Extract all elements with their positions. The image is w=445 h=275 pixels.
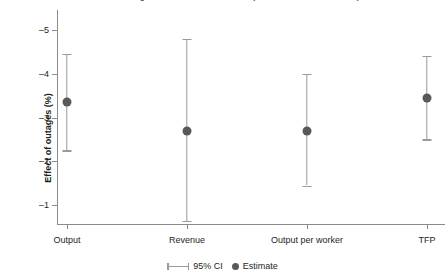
x-axis-line (57, 224, 445, 225)
errorbar-cap-lower (303, 186, 312, 187)
estimate-point (303, 126, 312, 135)
y-tick (52, 118, 57, 119)
estimate-point (183, 126, 192, 135)
x-tick (427, 225, 428, 229)
x-tick (307, 225, 308, 229)
errorbar-cap-lower (423, 139, 432, 140)
x-tick-label: TFP (419, 235, 436, 245)
y-tick-label: –2 (39, 156, 49, 166)
errorbar-cap-upper (183, 39, 192, 40)
y-tick (52, 74, 57, 75)
y-tick-label: –4 (39, 69, 49, 79)
errorbar-cap-lower (183, 221, 192, 222)
y-tick (52, 30, 57, 31)
x-tick (67, 225, 68, 229)
chart-figure: Effect of outages on firm-level outcomes… (0, 0, 445, 275)
y-tick-label: –1 (39, 200, 49, 210)
y-axis-line (57, 10, 58, 225)
errorbar-icon (167, 263, 189, 270)
x-tick-label: Revenue (169, 235, 205, 245)
legend-item-ci: 95% CI (167, 261, 223, 271)
errorbar-cap-upper (423, 56, 432, 57)
legend-label-ci: 95% CI (193, 261, 223, 271)
y-axis-title: Effect of outages (%) (43, 93, 53, 183)
y-tick-label: –3 (39, 113, 49, 123)
errorbar-cap-upper (63, 54, 72, 55)
errorbar-cap-lower (63, 150, 72, 151)
y-tick (52, 205, 57, 206)
y-tick-label: –5 (39, 25, 49, 35)
chart-title: Effect of outages on firm-level outcomes… (0, 0, 445, 1)
errorbar-cap-upper (303, 74, 312, 75)
legend-label-estimate: Estimate (243, 261, 278, 271)
estimate-point (423, 93, 432, 102)
chart-legend: 95% CI Estimate (0, 261, 445, 271)
circle-icon (232, 263, 239, 270)
y-tick (52, 161, 57, 162)
x-tick (187, 225, 188, 229)
estimate-point (63, 98, 72, 107)
legend-item-estimate: Estimate (232, 261, 278, 271)
plot-area: –5–4–3–2–1 OutputRevenueOutput per worke… (57, 10, 445, 225)
x-tick-label: Output per worker (271, 235, 343, 245)
x-tick-label: Output (53, 235, 80, 245)
